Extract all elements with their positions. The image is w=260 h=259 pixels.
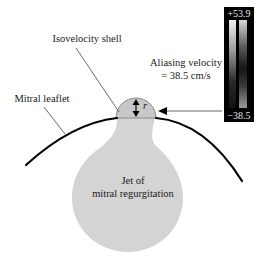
isovelocity-shell-label: Isovelocity shell	[52, 33, 121, 44]
aliasing-velocity-label: Aliasing velocity	[150, 57, 223, 68]
leaflet-leader-line	[44, 107, 65, 134]
jet-label-line2: mitral regurgitation	[92, 188, 174, 199]
velocity-colorbar: +53.9 −38.5	[224, 7, 254, 122]
isovelocity-leader-line	[76, 48, 119, 112]
colorbar-min-label: −38.5	[227, 110, 250, 121]
aliasing-velocity-value: = 38.5 cm/s	[161, 70, 210, 81]
jet-label-line1: Jet of	[121, 175, 145, 186]
colorbar-max-label: +53.9	[227, 8, 250, 19]
mitral-leaflet-label: Mitral leaflet	[14, 93, 69, 104]
pisa-diagram: r Isovelocity shell Aliasing velocity = …	[0, 0, 260, 259]
colorbar-left-strip	[229, 20, 236, 108]
colorbar-right-strip	[239, 20, 247, 108]
aliasing-arrow-icon	[158, 107, 222, 115]
